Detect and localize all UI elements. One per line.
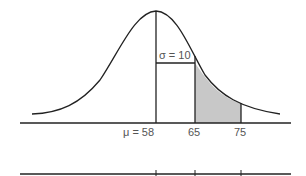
tick-label-65: 65 xyxy=(188,126,200,138)
mean-label: μ = 58 xyxy=(123,126,154,138)
shaded-region xyxy=(195,63,241,123)
normal-curve-figure: σ = 10 μ = 58 65 75 xyxy=(0,0,306,176)
sigma-label: σ = 10 xyxy=(159,49,191,61)
tick-label-75: 75 xyxy=(234,126,246,138)
